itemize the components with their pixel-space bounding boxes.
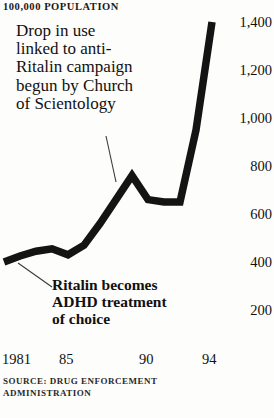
adhd-note-line-3: of choice — [52, 310, 222, 327]
y-axis-tick-1200: 1,200 — [239, 63, 272, 78]
chart-unit-label: 100,000 POPULATION — [3, 1, 119, 12]
y-axis-tick-400: 400 — [250, 255, 272, 270]
campaign-note-line-2: linked to anti- — [16, 40, 206, 58]
x-axis-tick-94: 94 — [202, 352, 217, 367]
y-axis-tick-1000: 1,000 — [239, 111, 272, 126]
y-axis-tick-600: 600 — [250, 207, 272, 222]
x-axis-labels: 1981859094 — [0, 352, 234, 372]
source-line-2: ADMINISTRATION — [3, 387, 233, 399]
chart-page: 100,000 POPULATION 1,4001,2001,000800600… — [0, 0, 274, 418]
x-axis-tick-1981: 1981 — [2, 352, 31, 367]
y-axis-labels: 1,4001,2001,000800600400200 — [218, 14, 274, 344]
campaign-note-line-1: Drop in use — [16, 22, 206, 40]
y-axis-tick-200: 200 — [250, 303, 272, 318]
x-axis-tick-85: 85 — [59, 352, 74, 367]
adhd-treatment-annotation: Ritalin becomesADHD treatmentof choice — [52, 276, 222, 327]
source-line-1: SOURCE: DRUG ENFORCEMENT — [3, 375, 233, 387]
adhd-note-line-2: ADHD treatment — [52, 293, 222, 310]
x-axis-tick-90: 90 — [139, 352, 154, 367]
y-axis-tick-1400: 1,400 — [239, 15, 272, 30]
campaign-note-line-4: begun by Church — [16, 77, 206, 95]
top-annotation-leader-line — [106, 136, 116, 182]
campaign-note-line-5: of Scientology — [16, 95, 206, 113]
bottom-annotation-leader-line — [18, 263, 52, 287]
scientology-campaign-annotation: Drop in uselinked to anti-Ritalin campai… — [16, 22, 206, 113]
campaign-note-line-3: Ritalin campaign — [16, 58, 206, 76]
source-note: SOURCE: DRUG ENFORCEMENTADMINISTRATION — [3, 375, 233, 399]
y-axis-tick-800: 800 — [250, 159, 272, 174]
adhd-note-line-1: Ritalin becomes — [52, 276, 222, 293]
